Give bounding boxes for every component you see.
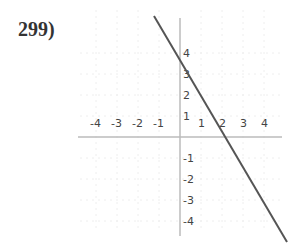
svg-text:1: 1 — [183, 110, 190, 123]
svg-text:3: 3 — [240, 117, 247, 130]
svg-text:-3: -3 — [183, 194, 194, 207]
svg-text:-1: -1 — [183, 152, 194, 165]
svg-text:-1: -1 — [153, 117, 164, 130]
svg-text:4: 4 — [183, 47, 190, 60]
svg-text:4: 4 — [261, 117, 268, 130]
coordinate-plane: -4 -3 -2 -1 1 2 3 4 4 3 2 1 -1 -2 -3 -4 — [0, 0, 304, 251]
svg-text:-2: -2 — [132, 117, 143, 130]
x-tick-labels: -4 -3 -2 -1 1 2 3 4 — [90, 117, 268, 130]
svg-text:-4: -4 — [183, 215, 194, 228]
svg-text:-4: -4 — [90, 117, 101, 130]
svg-text:-3: -3 — [111, 117, 122, 130]
svg-text:2: 2 — [183, 89, 190, 102]
svg-text:-2: -2 — [183, 173, 194, 186]
svg-text:1: 1 — [198, 117, 205, 130]
